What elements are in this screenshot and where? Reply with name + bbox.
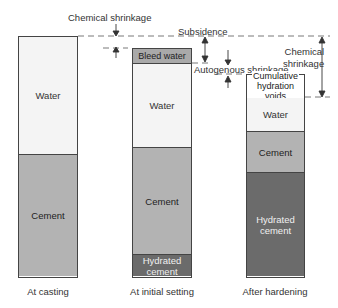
chemical-shrinkage-label: Chemical shrinkage xyxy=(68,12,151,23)
segment-label: Bleed water xyxy=(138,51,186,62)
segment-cumulative-hydration-voids: Cumulative hydration voids xyxy=(247,75,304,98)
column-at-casting: Water Cement xyxy=(18,36,78,278)
segment-hydrated-cement: Hydrated cement xyxy=(247,172,304,276)
caption-after-hardening: After hardening xyxy=(230,286,320,297)
segment-cement: Cement xyxy=(19,154,77,276)
chemical-shrinkage-right-label: Chemical shrinkage xyxy=(283,46,324,70)
segment-label-line1: Hydrated xyxy=(256,214,295,225)
segment-label: Cement xyxy=(145,196,178,207)
segment-water: Water xyxy=(133,64,191,147)
caption-at-casting: At casting xyxy=(3,286,93,297)
segment-hydrated-cement: Hydrated cement xyxy=(133,254,191,276)
segment-bleed-water: Bleed water xyxy=(133,49,191,64)
segment-water: Water xyxy=(19,37,77,154)
segment-label: Cement xyxy=(31,210,64,221)
chemical-shrinkage-right-line2: shrinkage xyxy=(283,58,324,70)
caption-at-initial-setting: At initial setting xyxy=(117,286,207,297)
segment-label: Water xyxy=(150,100,175,111)
segment-water: Water xyxy=(247,98,304,131)
segment-label: Water xyxy=(36,90,61,101)
segment-label: Water xyxy=(263,109,288,120)
segment-label-line1: Cumulative xyxy=(252,71,299,81)
segment-cement: Cement xyxy=(133,147,191,254)
segment-label-line2: cement xyxy=(260,225,291,236)
subsidence-label: Subsidence xyxy=(178,26,228,37)
column-at-initial-setting: Bleed water Water Cement Hydrated cement xyxy=(132,48,192,278)
column-after-hardening: Cumulative hydration voids Water Cement … xyxy=(246,74,305,278)
segment-label-line2: cement xyxy=(146,266,177,277)
segment-cement: Cement xyxy=(247,131,304,172)
chemical-shrinkage-right-line1: Chemical xyxy=(283,46,324,58)
segment-label: Cement xyxy=(259,147,292,158)
segment-label-line1: Hydrated xyxy=(143,255,182,266)
